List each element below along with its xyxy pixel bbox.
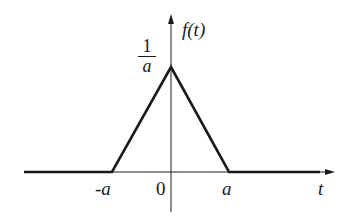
x-axis-label: t bbox=[318, 179, 323, 198]
peak-label: 1 a bbox=[138, 38, 156, 74]
peak-numerator: 1 bbox=[138, 38, 156, 55]
tick-label-pos-a: a bbox=[222, 179, 232, 198]
function-label: f(t) bbox=[182, 20, 205, 39]
triangle-pulse-diagram bbox=[0, 0, 353, 220]
peak-denominator: a bbox=[138, 58, 156, 74]
x-axis-arrow-icon bbox=[325, 169, 335, 175]
y-axis-arrow-icon bbox=[168, 14, 174, 24]
tick-label-neg-a: -a bbox=[95, 179, 111, 198]
function-curve bbox=[24, 67, 320, 172]
tick-label-zero: 0 bbox=[156, 179, 166, 198]
